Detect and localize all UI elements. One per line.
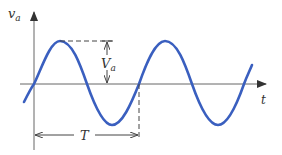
- amplitude-label: Va: [101, 56, 116, 73]
- x-axis-label: t: [261, 93, 266, 107]
- sine-curve: [24, 41, 252, 125]
- y-axis-label: va: [8, 6, 21, 23]
- sinusoid-diagram: va t Va T: [0, 0, 282, 155]
- period-label: T: [80, 128, 90, 143]
